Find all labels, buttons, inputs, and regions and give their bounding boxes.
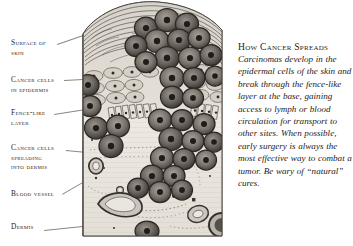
label-dermis: Dermis — [11, 222, 34, 232]
skin-cross-section-illustration — [74, 0, 224, 237]
label-cancer-cells-spreading-into-dermis: Cancer cells spreading into dermis — [11, 143, 54, 172]
article-block: How Cancer Spreads Carcinomas develop in… — [238, 41, 352, 189]
label-cancer-cells-in-epidermis: Cancer cells in epidermis — [11, 75, 54, 94]
label-fence-like-layer: Fence-like layer — [11, 108, 46, 127]
label-line: Dermis — [11, 222, 34, 232]
label-line: Cancer cells — [11, 75, 54, 85]
label-line: in epidermis — [11, 85, 54, 95]
label-line: Blood vessel — [11, 189, 54, 199]
label-line: Fence-like — [11, 108, 46, 118]
article-body: Carcinomas develop in the epidermal cell… — [238, 53, 352, 189]
label-line: into dermis — [11, 162, 54, 172]
blood-vessel-small — [89, 158, 103, 174]
label-line: layer — [11, 118, 46, 128]
label-line: Surface of — [11, 38, 46, 48]
label-line: skin — [11, 48, 46, 58]
figure-page: Surface of skin Cancer cells in epidermi… — [0, 0, 353, 246]
label-line: Cancer cells — [11, 143, 54, 153]
label-surface-of-skin: Surface of skin — [11, 38, 46, 57]
article-heading: How Cancer Spreads — [238, 41, 352, 52]
label-blood-vessel: Blood vessel — [11, 189, 54, 199]
label-line: spreading — [11, 153, 54, 163]
